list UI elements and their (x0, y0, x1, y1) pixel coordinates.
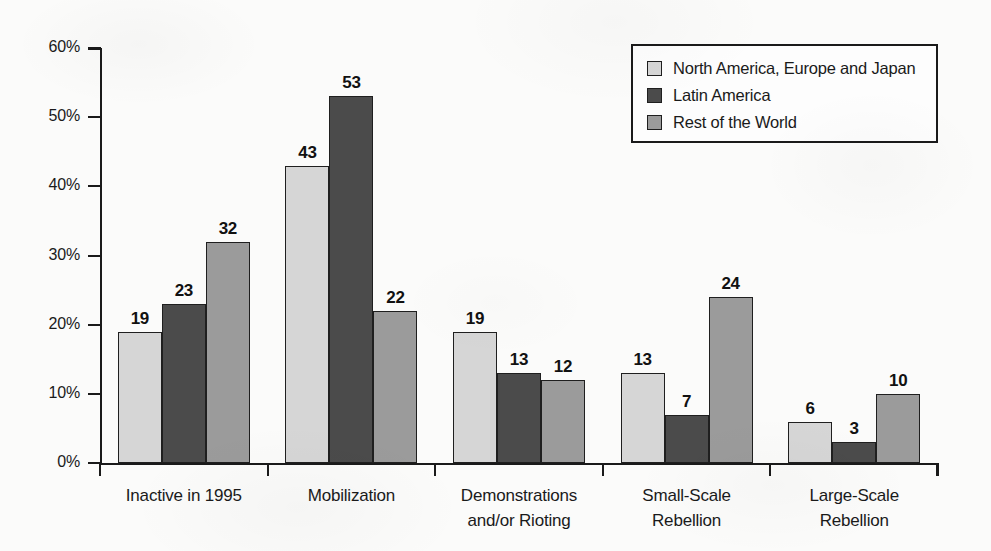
bar-value-label: 12 (533, 357, 593, 377)
bar (876, 394, 920, 463)
chart-legend: North America, Europe and JapanLatin Ame… (631, 44, 938, 143)
chart-page: 0%10%20%30%40%50%60% 1923324353221913121… (0, 0, 991, 551)
bar (541, 380, 585, 463)
bar-value-label: 19 (110, 309, 170, 329)
bar-value-label: 10 (868, 371, 928, 391)
bar-value-label: 3 (824, 419, 884, 439)
bar-value-label: 53 (321, 73, 381, 93)
x-axis-label: Small-ScaleRebellion (603, 483, 771, 533)
x-tick-mark (937, 463, 939, 476)
y-tick-label: 20% (0, 315, 80, 333)
y-tick-label: 30% (0, 246, 80, 264)
bar (162, 304, 206, 463)
bar-value-label: 32 (198, 219, 258, 239)
bar-value-label: 6 (780, 399, 840, 419)
x-axis-label-line: Rebellion (603, 508, 771, 533)
x-axis-label-line: Demonstrations (435, 483, 603, 508)
y-tick-label: 10% (0, 384, 80, 402)
bar-value-label: 19 (445, 309, 505, 329)
x-axis-label-line: Inactive in 1995 (100, 483, 268, 508)
x-tick-mark (434, 463, 436, 476)
x-axis-label: Mobilization (268, 483, 436, 508)
bar (621, 373, 665, 463)
bar (497, 373, 541, 463)
legend-label: Rest of the World (673, 113, 797, 132)
bar (329, 96, 373, 463)
legend-item: North America, Europe and Japan (647, 55, 936, 82)
x-axis-label: Large-ScaleRebellion (770, 483, 938, 533)
x-axis-label-line: and/or Rioting (435, 508, 603, 533)
bar (118, 332, 162, 463)
y-tick-label: 50% (0, 107, 80, 125)
legend-swatch-icon (647, 61, 662, 76)
bar-value-label: 7 (657, 392, 717, 412)
x-axis-line (100, 463, 938, 465)
x-tick-mark (99, 463, 101, 476)
x-tick-mark (267, 463, 269, 476)
x-axis-label-line: Large-Scale (770, 483, 938, 508)
x-axis-label: Demonstrationsand/or Rioting (435, 483, 603, 533)
bar-value-label: 22 (365, 288, 425, 308)
legend-label: Latin America (673, 86, 770, 105)
bar (285, 166, 329, 463)
bar-value-label: 13 (613, 350, 673, 370)
bar (206, 242, 250, 463)
bar-value-label: 43 (277, 143, 337, 163)
x-axis-label-line: Mobilization (268, 483, 436, 508)
x-axis-label-line: Rebellion (770, 508, 938, 533)
bar (665, 415, 709, 463)
x-axis-label-line: Small-Scale (603, 483, 771, 508)
legend-item: Rest of the World (647, 109, 936, 136)
y-tick-label: 60% (0, 38, 80, 56)
legend-item: Latin America (647, 82, 936, 109)
x-tick-mark (769, 463, 771, 476)
legend-label: North America, Europe and Japan (673, 59, 915, 78)
legend-swatch-icon (647, 88, 662, 103)
legend-swatch-icon (647, 115, 662, 130)
bar (832, 442, 876, 463)
bar (709, 297, 753, 463)
bar (373, 311, 417, 463)
y-tick-label: 40% (0, 176, 80, 194)
bar-value-label: 23 (154, 281, 214, 301)
bar-value-label: 24 (701, 274, 761, 294)
y-tick-label: 0% (0, 453, 80, 471)
x-axis-label: Inactive in 1995 (100, 483, 268, 508)
x-tick-mark (602, 463, 604, 476)
